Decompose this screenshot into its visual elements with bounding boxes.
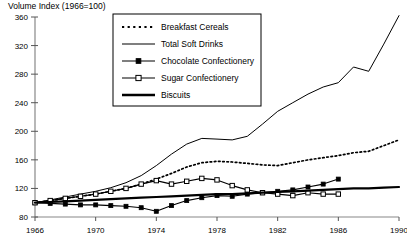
x-tick-label: 1978 [208, 226, 226, 235]
series-sugar-confectionery-marker [185, 179, 189, 183]
series-sugar-confectionery-marker [124, 186, 128, 190]
x-tick-label: 1966 [26, 226, 44, 235]
series-chocolate-confectionery-marker [63, 202, 67, 206]
legend-label-5: Biscuits [161, 90, 190, 100]
series-chocolate-confectionery-marker [124, 204, 128, 208]
legend-label-3: Chocolate Confectionery [161, 56, 255, 66]
series-sugar-confectionery-marker [154, 178, 158, 182]
series-chocolate-confectionery-marker [154, 209, 158, 213]
series-sugar-confectionery-marker [321, 192, 325, 196]
series-sugar-confectionery-marker [215, 178, 219, 182]
series-sugar-confectionery-marker [109, 189, 113, 193]
series-sugar-confectionery-marker [245, 188, 249, 192]
series-chocolate-confectionery-marker [200, 196, 204, 200]
x-tick-label: 1970 [87, 226, 105, 235]
chart-container: Volume Index (1966=100) 8012016020024028… [0, 0, 407, 246]
series-sugar-confectionery-marker [78, 194, 82, 198]
y-tick-label: 120 [15, 184, 29, 193]
y-tick-label: 240 [15, 99, 29, 108]
y-tick-label: 200 [15, 127, 29, 136]
series-sugar-confectionery-marker [200, 176, 204, 180]
x-tick-label: 1982 [269, 226, 287, 235]
y-tick-label: 360 [15, 13, 29, 22]
x-tick-label: 1990 [390, 226, 407, 235]
legend-label-1: Breakfast Cereals [161, 22, 229, 32]
legend-marker-3 [136, 59, 141, 64]
y-tick-label: 320 [15, 42, 29, 51]
series-chocolate-confectionery-marker [94, 203, 98, 207]
series-sugar-confectionery-marker [291, 193, 295, 197]
line-chart: 8012016020024028032036019661970197419781… [0, 0, 407, 246]
x-tick-label: 1974 [147, 226, 165, 235]
series-sugar-confectionery-marker [139, 182, 143, 186]
y-tick-label: 80 [19, 213, 28, 222]
series-chocolate-confectionery-marker [170, 204, 174, 208]
series-chocolate-confectionery-marker [109, 204, 113, 208]
y-tick-label: 160 [15, 156, 29, 165]
y-tick-label: 280 [15, 70, 29, 79]
series-sugar-confectionery-marker [169, 182, 173, 186]
series-chocolate-confectionery-marker [185, 199, 189, 203]
series-chocolate-confectionery-marker [336, 177, 340, 181]
series-chocolate-confectionery-marker [306, 185, 310, 189]
x-tick-label: 1986 [329, 226, 347, 235]
series-chocolate-confectionery-marker [321, 182, 325, 186]
legend-marker-4 [136, 75, 141, 80]
series-chocolate-confectionery-marker [79, 203, 83, 207]
series-chocolate-confectionery-marker [139, 206, 143, 210]
legend-label-2: Total Soft Drinks [161, 39, 223, 49]
legend-label-4: Sugar Confectionery [161, 73, 239, 83]
series-sugar-confectionery-marker [94, 192, 98, 196]
series-sugar-confectionery-marker [336, 192, 340, 196]
series-sugar-confectionery-marker [63, 196, 67, 200]
series-sugar-confectionery-marker [230, 183, 234, 187]
